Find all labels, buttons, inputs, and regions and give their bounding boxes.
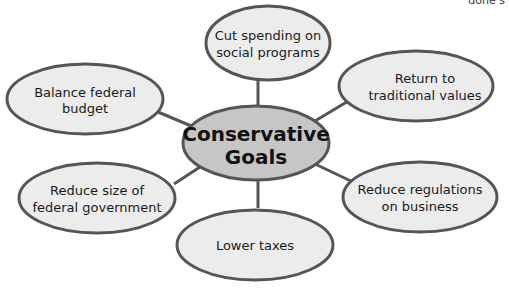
node-lower-taxes: Lower taxes [177, 210, 333, 280]
node-label-line2: on business [382, 199, 459, 214]
node-label-line1: Reduce regulations [357, 182, 482, 197]
node-traditional-values: Return to traditional values [339, 51, 493, 121]
node-cut-spending: Cut spending on social programs [206, 6, 330, 80]
center-node: Conservative Goals [182, 106, 330, 180]
node-label-line2: traditional values [368, 88, 481, 103]
node-label-line2: federal government [32, 200, 161, 215]
node-balance-budget: Balance federal budget [7, 64, 163, 134]
center-label-line2: Goals [225, 145, 287, 169]
node-label-line2: budget [62, 101, 108, 116]
connector-traditional-values [315, 100, 350, 121]
connector-reduce-regulations [315, 164, 355, 183]
connector-reduce-government [174, 167, 200, 184]
node-reduce-regulations: Reduce regulations on business [343, 162, 497, 232]
node-label-line1: Balance federal [34, 85, 136, 100]
node-reduce-government: Reduce size of federal government [19, 163, 175, 233]
node-label-line1: Reduce size of [50, 183, 145, 198]
node-label-line1: Cut spending on [215, 28, 322, 43]
node-label-line1: Return to [395, 71, 455, 86]
node-label-line1: Lower taxes [216, 238, 294, 253]
concept-web-diagram: Cut spending on social programs Return t… [0, 0, 509, 294]
node-label-line2: social programs [216, 45, 320, 60]
center-label-line1: Conservative [182, 122, 330, 146]
